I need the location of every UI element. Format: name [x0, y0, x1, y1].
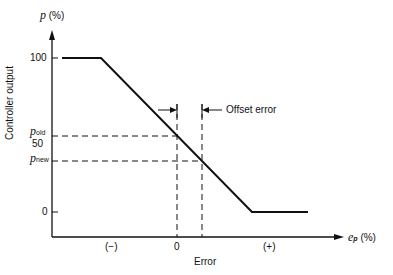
y-axis-title: Controller output — [4, 66, 15, 140]
arrow-left-icon — [202, 107, 209, 113]
guide-lines — [52, 104, 202, 237]
arrow-right-icon — [170, 107, 177, 113]
y-tick-0: 0 — [42, 206, 48, 217]
p-old-label: pold — [30, 124, 45, 139]
y-axis-arrow-icon — [49, 30, 55, 40]
controller-curve — [62, 58, 308, 212]
y-tick-50: 50 — [32, 138, 43, 149]
x-tick-negative: (−) — [105, 241, 118, 252]
p-new-label: pnew — [30, 151, 49, 166]
offset-error-label: Offset error — [226, 104, 276, 115]
x-axis-arrow-icon — [334, 234, 344, 240]
x-tick-positive: (+) — [263, 241, 276, 252]
diagram-canvas — [0, 0, 393, 275]
x-tick-zero: 0 — [174, 241, 180, 252]
x-axis-title: Error — [194, 256, 216, 267]
y-tick-100: 100 — [30, 52, 47, 63]
y-axis-label: p (%) — [40, 8, 64, 23]
x-axis-label: ep (%) — [348, 230, 376, 245]
